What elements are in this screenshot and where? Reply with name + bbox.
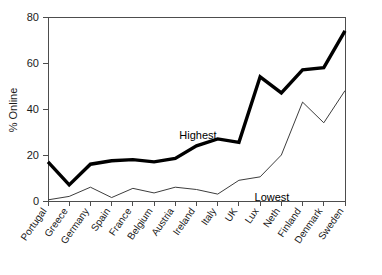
chart-container: 80 60 40 20 0 % Online PortugalGreeceGer… (0, 0, 382, 275)
annotation-highest: Highest (179, 129, 216, 141)
y-tick-label-0: 0 (33, 195, 39, 207)
y-tick-label-20: 20 (27, 149, 39, 161)
y-tick-label-60: 60 (27, 57, 39, 69)
percent-online-line-chart: 80 60 40 20 0 % Online PortugalGreeceGer… (0, 0, 382, 275)
annotation-lowest: Lowest (255, 191, 290, 203)
y-tick-label-40: 40 (27, 103, 39, 115)
y-axis-title: % Online (7, 88, 19, 133)
y-tick-label-80: 80 (27, 11, 39, 23)
